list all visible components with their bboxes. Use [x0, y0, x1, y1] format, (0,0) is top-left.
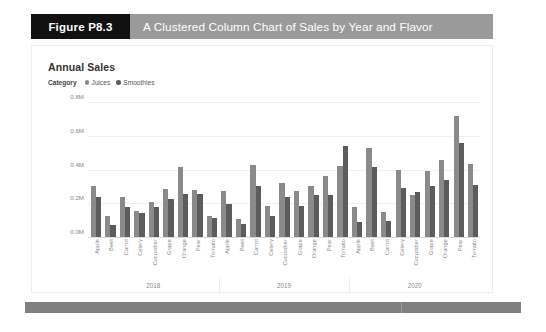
x-axis-category-label: Cucumber — [282, 239, 288, 266]
bar-cluster[interactable] — [396, 102, 406, 237]
x-axis-category-label: Beet — [108, 239, 114, 251]
legend-label-juices: Juices — [92, 79, 111, 86]
bar-smoothies[interactable] — [299, 206, 304, 237]
bar-smoothies[interactable] — [357, 222, 362, 237]
bar-smoothies[interactable] — [372, 167, 377, 237]
bar-cluster[interactable] — [120, 102, 130, 237]
bar-smoothies[interactable] — [212, 218, 217, 237]
bar-smoothies[interactable] — [226, 204, 231, 237]
bar-cluster[interactable] — [265, 102, 275, 237]
bar-smoothies[interactable] — [125, 207, 130, 237]
bar-cluster[interactable] — [149, 102, 159, 237]
bar-cluster[interactable] — [425, 102, 435, 237]
bar-cluster[interactable] — [323, 102, 333, 237]
bar-smoothies[interactable] — [415, 192, 420, 237]
y-axis-tick: 0.0M — [70, 228, 84, 235]
y-axis-tick: 0.2M — [70, 194, 84, 201]
x-axis-category-label: Pear — [195, 239, 201, 251]
legend-label-smoothies: Smoothies — [123, 79, 154, 86]
bar-cluster[interactable] — [439, 102, 449, 237]
bar-smoothies[interactable] — [430, 186, 435, 237]
x-axis-category-label: Orange — [181, 239, 187, 258]
bar-smoothies[interactable] — [444, 180, 449, 237]
x-axis-category-label: Carrot — [253, 239, 259, 255]
bar-layer — [88, 102, 480, 237]
bar-smoothies[interactable] — [386, 221, 391, 237]
legend-item-smoothies[interactable]: Smoothies — [116, 79, 154, 86]
footer-seam — [401, 302, 402, 313]
bar-smoothies[interactable] — [183, 194, 188, 237]
x-axis-group-label: 2020 — [408, 282, 422, 289]
bar-smoothies[interactable] — [328, 195, 333, 237]
legend-title: Category — [48, 79, 77, 86]
x-axis-category-label: Tomato — [340, 239, 346, 258]
bar-cluster[interactable] — [294, 102, 304, 237]
x-axis-category-label: Orange — [311, 239, 317, 258]
bar-cluster[interactable] — [178, 102, 188, 237]
x-axis-category-label: Apple — [224, 239, 230, 254]
bar-cluster[interactable] — [163, 102, 173, 237]
bar-smoothies[interactable] — [256, 186, 261, 237]
bar-smoothies[interactable] — [285, 197, 290, 238]
group-separator — [349, 278, 350, 294]
bar-cluster[interactable] — [192, 102, 202, 237]
bar-smoothies[interactable] — [96, 197, 101, 238]
x-axis-category-label: Tomato — [210, 239, 216, 258]
bar-cluster[interactable] — [337, 102, 347, 237]
figure-banner: Figure P8.3 A Clustered Column Chart of … — [31, 14, 493, 39]
page-footer-bar — [25, 302, 521, 313]
bar-cluster[interactable] — [381, 102, 391, 237]
y-axis-tick: 0.6M — [70, 126, 84, 133]
figure-caption: A Clustered Column Chart of Sales by Yea… — [130, 14, 433, 39]
x-axis-category-label: Celery — [399, 239, 405, 256]
bar-cluster[interactable] — [308, 102, 318, 237]
bar-smoothies[interactable] — [154, 207, 159, 237]
bar-cluster[interactable] — [454, 102, 464, 237]
x-axis-category-label: Cucumber — [413, 239, 419, 266]
x-axis-category-label: Apple — [94, 239, 100, 254]
y-axis-labels: 0.0M0.2M0.4M0.6M0.8M — [40, 96, 84, 237]
bar-smoothies[interactable] — [314, 195, 319, 237]
x-axis-category-label: Pear — [457, 239, 463, 251]
legend-swatch-juices — [85, 80, 90, 85]
bar-cluster[interactable] — [134, 102, 144, 237]
bar-smoothies[interactable] — [168, 199, 173, 237]
x-axis-category-label: Pear — [326, 239, 332, 251]
bar-cluster[interactable] — [105, 102, 115, 237]
x-axis-category-label: Beet — [369, 239, 375, 251]
x-axis-category-label: Apple — [355, 239, 361, 254]
bar-smoothies[interactable] — [139, 213, 144, 237]
chart-card: Annual Sales Category Juices Smoothies 0… — [31, 45, 493, 293]
x-axis-category-label: Cucumber — [152, 239, 158, 266]
bar-cluster[interactable] — [250, 102, 260, 237]
x-axis-category-label: Carrot — [123, 239, 129, 255]
bar-smoothies[interactable] — [197, 194, 202, 237]
bar-smoothies[interactable] — [270, 216, 275, 237]
bar-smoothies[interactable] — [110, 225, 115, 237]
legend-item-juices[interactable]: Juices — [85, 79, 111, 86]
x-axis-category-label: Tomato — [471, 239, 477, 258]
chart-legend: Category Juices Smoothies — [48, 79, 154, 86]
bar-cluster[interactable] — [207, 102, 217, 237]
bar-smoothies[interactable] — [241, 224, 246, 237]
bar-cluster[interactable] — [352, 102, 362, 237]
plot-area — [88, 102, 480, 237]
bar-cluster[interactable] — [410, 102, 420, 237]
bar-cluster[interactable] — [221, 102, 231, 237]
bar-smoothies[interactable] — [401, 188, 406, 237]
bar-cluster[interactable] — [366, 102, 376, 237]
x-axis-category-label: Beet — [239, 239, 245, 251]
bar-cluster[interactable] — [91, 102, 101, 237]
figure-page: Figure P8.3 A Clustered Column Chart of … — [0, 0, 546, 332]
bar-smoothies[interactable] — [459, 143, 464, 237]
bar-smoothies[interactable] — [473, 185, 478, 237]
bar-cluster[interactable] — [279, 102, 289, 237]
x-axis-category-label: Orange — [442, 239, 448, 258]
bar-cluster[interactable] — [236, 102, 246, 237]
bar-cluster[interactable] — [468, 102, 478, 237]
x-axis-category-label: Celery — [268, 239, 274, 256]
y-axis-tick: 0.8M — [70, 93, 84, 100]
y-axis-tick: 0.4M — [70, 160, 84, 167]
x-axis-group-label: 2018 — [146, 282, 160, 289]
bar-smoothies[interactable] — [343, 146, 348, 237]
